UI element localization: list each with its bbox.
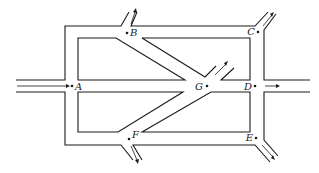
- node-dot: [128, 138, 131, 141]
- road-edge-e-right: [264, 92, 310, 156]
- node-c: C: [247, 26, 259, 37]
- node-label: G: [195, 81, 203, 92]
- arrow-in-a: [17, 84, 70, 88]
- intersection-nodes: ABCDEFG: [71, 26, 260, 143]
- node-g: G: [195, 81, 208, 92]
- road-edge-bottom-outer: [16, 92, 133, 160]
- arrow-out-b: [131, 8, 137, 24]
- node-dot: [126, 32, 129, 35]
- block-bottom-left: [78, 92, 183, 132]
- node-label: B: [129, 27, 137, 38]
- node-a: A: [71, 81, 83, 92]
- node-dot: [71, 85, 74, 88]
- block-bottom-right: [142, 92, 250, 132]
- road-edge-bottom-outer-2: [133, 145, 270, 162]
- node-label: D: [243, 81, 252, 92]
- arrow-out-e: [262, 145, 275, 160]
- arrow-out-g: [215, 61, 228, 75]
- arrow-out-d: [265, 84, 280, 88]
- road-network-diagram: ABCDEFG: [0, 0, 319, 173]
- node-f: F: [128, 129, 140, 140]
- road-outlines: [16, 12, 310, 162]
- node-label: C: [247, 26, 255, 37]
- node-label: E: [245, 132, 254, 143]
- node-dot: [257, 31, 260, 34]
- node-e: E: [245, 132, 258, 143]
- block-top-right: [142, 38, 250, 80]
- node-label: F: [131, 129, 140, 140]
- block-top-left: [78, 38, 185, 80]
- node-dot: [206, 85, 209, 88]
- flow-arrows: [17, 8, 280, 164]
- node-label: A: [74, 81, 82, 92]
- road-edge-c-right: [264, 14, 310, 80]
- node-d: D: [243, 81, 256, 92]
- block-top-right-diagonal: [142, 38, 216, 77]
- road-edge-top-outer: [16, 12, 129, 80]
- node-dot: [255, 137, 258, 140]
- node-b: B: [126, 27, 138, 38]
- road-edge-top-outer-2: [131, 12, 268, 26]
- node-dot: [254, 85, 257, 88]
